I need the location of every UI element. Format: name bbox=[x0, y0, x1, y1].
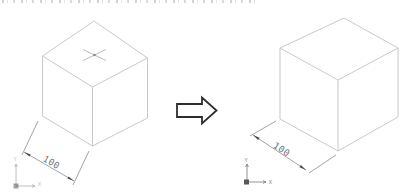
left-ucs-y-label: Y bbox=[13, 156, 18, 162]
left-cube bbox=[43, 21, 148, 146]
cad-drawing-area: 100 Y X bbox=[0, 0, 407, 196]
left-dimension-value: 100 bbox=[41, 154, 62, 172]
left-ucs-icon: Y X bbox=[13, 156, 42, 189]
right-ucs-y-label: Y bbox=[244, 157, 249, 163]
extension-line bbox=[22, 121, 38, 155]
extension-line bbox=[309, 155, 336, 173]
left-ucs-x-label: X bbox=[38, 181, 42, 187]
ucs-origin-box bbox=[14, 184, 19, 189]
right-cube-top-face bbox=[280, 18, 398, 80]
transform-arrow-icon bbox=[177, 98, 217, 124]
ucs-origin-box bbox=[244, 180, 249, 185]
right-cube bbox=[280, 18, 398, 151]
extension-line bbox=[73, 151, 89, 185]
center-mark-dot bbox=[93, 54, 96, 57]
right-dimension-value: 100 bbox=[271, 140, 292, 158]
left-dimension: 100 bbox=[22, 121, 89, 185]
right-dimension: 100 bbox=[250, 121, 336, 173]
right-ucs-icon: Y X bbox=[244, 157, 273, 186]
right-ucs-x-label: X bbox=[269, 179, 273, 185]
extension-line bbox=[250, 121, 276, 136]
isometric-cubes-drawing: 100 Y X bbox=[0, 0, 407, 196]
center-mark-icon bbox=[83, 50, 106, 61]
left-cube-bottom-edges bbox=[43, 116, 148, 146]
right-cube-bottom-edges bbox=[280, 117, 398, 151]
